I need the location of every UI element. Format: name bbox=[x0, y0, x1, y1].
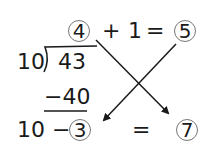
plus-sign: + bbox=[102, 20, 120, 42]
divisor: 10 bbox=[17, 51, 45, 73]
subtracted-value: −40 bbox=[44, 86, 90, 108]
remainder-prefix: 10 − bbox=[17, 119, 70, 141]
remainder-circle: 3 bbox=[69, 119, 91, 141]
arrow-4-to-7 bbox=[96, 40, 168, 113]
arrow-5-to-3 bbox=[104, 44, 176, 120]
top-result-circle: 5 bbox=[174, 20, 196, 42]
bottom-equals-sign: = bbox=[132, 119, 150, 141]
quotient-circle: 4 bbox=[68, 20, 90, 42]
top-equals-sign: = bbox=[146, 20, 164, 42]
dividend: 43 bbox=[58, 51, 86, 73]
one-value: 1 bbox=[128, 20, 142, 42]
bottom-result-circle: 7 bbox=[176, 119, 198, 141]
